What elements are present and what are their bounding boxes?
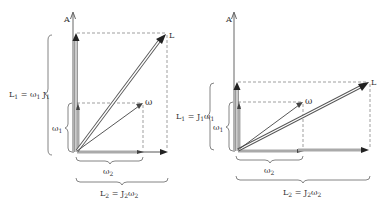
vector-omega-arrowhead-icon: [136, 103, 143, 109]
brace-omega1: [65, 103, 72, 152]
panel-left: A L ω L1 = ω1 J1: [9, 12, 175, 199]
vector-omega: [77, 106, 139, 151]
label-L2-equation: L2 = J2ω2: [283, 188, 322, 198]
L2-arrowhead-icon: [160, 149, 168, 155]
vector-L-label: L: [371, 78, 377, 87]
brace-L2: [76, 178, 168, 185]
vector-omega-label: ω: [305, 96, 312, 106]
L1-arrowhead-icon: [73, 33, 80, 41]
label-L2-equation: L2 = J2ω2: [100, 189, 139, 199]
axis-a-label: A: [63, 15, 70, 24]
vector-omega-label: ω: [145, 97, 152, 107]
brace-omega2: [236, 156, 303, 163]
vector-omega-arrowhead-icon: [296, 102, 303, 108]
vector-L-label: L: [169, 31, 175, 40]
brace-omega2: [76, 157, 143, 164]
label-L1-equation: L1 = J1ω1: [176, 112, 214, 122]
brace-omega1: [226, 102, 233, 151]
L2-arrowhead-icon: [361, 147, 369, 153]
label-omega2: ω2: [264, 166, 275, 176]
brace-L2: [236, 176, 370, 183]
label-L1-equation: L1 = ω1 J1: [9, 90, 50, 100]
label-omega1: ω1: [213, 123, 223, 133]
angular-momentum-diagram: A L ω L1 = ω1 J1: [0, 0, 382, 208]
label-omega1: ω1: [52, 124, 62, 134]
vector-L-arrowhead-icon: [358, 82, 369, 91]
axis-a-label: A: [225, 15, 232, 24]
label-omega2: ω2: [103, 167, 114, 177]
vector-omega: [238, 105, 299, 150]
panel-right: A L ω L1 = J1ω1: [176, 12, 377, 198]
L1-arrowhead-icon: [234, 82, 241, 90]
